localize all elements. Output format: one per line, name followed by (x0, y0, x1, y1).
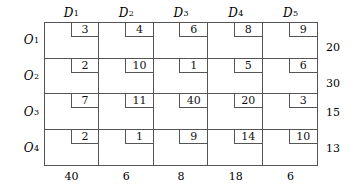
column-header-d1: D1 (44, 4, 99, 22)
cost-value: 20 (234, 94, 262, 108)
cost-value: 7 (71, 94, 99, 108)
table-cell[interactable]: 4 (99, 23, 153, 59)
table-cell[interactable]: 9 (154, 130, 208, 166)
row-header-letter: O (24, 105, 34, 119)
supply-value: 30 (322, 58, 356, 94)
row-header-o2: O2 (10, 58, 42, 94)
column-header-d5: D5 (263, 4, 318, 22)
cost-value: 1 (125, 130, 153, 145)
cost-value: 11 (125, 94, 153, 108)
table-cell[interactable]: 6 (154, 23, 208, 59)
demand-value: 40 (44, 167, 99, 185)
table-cell[interactable]: 2 (45, 130, 99, 166)
cost-grid: 34689210156711402032191410 (44, 22, 318, 166)
cost-value: 10 (289, 130, 317, 145)
cost-value: 14 (234, 130, 262, 145)
column-header-letter: D (173, 6, 183, 20)
cost-value: 40 (179, 94, 207, 108)
demand-value: 18 (208, 167, 263, 185)
column-header-subscript: 2 (129, 9, 134, 18)
table-cell[interactable]: 9 (263, 23, 317, 59)
supply-value: 15 (322, 94, 356, 130)
column-header-letter: D (64, 6, 74, 20)
row-header-o1: O1 (10, 22, 42, 58)
table-cell[interactable]: 11 (99, 94, 153, 130)
cost-value: 4 (125, 23, 153, 37)
cost-value: 9 (179, 130, 207, 145)
table-cell[interactable]: 3 (263, 94, 317, 130)
column-header-subscript: 3 (183, 9, 188, 18)
row-header-subscript: 1 (34, 36, 39, 45)
column-header-d4: D4 (208, 4, 263, 22)
demand-value: 8 (154, 167, 209, 185)
table-cell[interactable]: 40 (154, 94, 208, 130)
cost-value: 3 (71, 23, 99, 37)
table-cell[interactable]: 1 (154, 59, 208, 95)
cost-value: 2 (71, 59, 99, 73)
table-cell[interactable]: 7 (45, 94, 99, 130)
table-cell[interactable]: 1 (99, 130, 153, 166)
table-cell[interactable]: 2 (45, 59, 99, 95)
row-header-letter: O (24, 69, 34, 83)
row-header-subscript: 3 (34, 108, 39, 117)
table-cell[interactable]: 3 (45, 23, 99, 59)
cost-value: 10 (125, 59, 153, 73)
cost-value: 6 (179, 23, 207, 37)
demand-value: 6 (99, 167, 154, 185)
cost-value: 5 (234, 59, 262, 73)
cost-value: 6 (289, 59, 317, 73)
row-header-subscript: 2 (34, 72, 39, 81)
cost-value: 1 (179, 59, 207, 73)
cost-value: 8 (234, 23, 262, 37)
row-header-o3: O3 (10, 94, 42, 130)
column-header-letter: D (283, 6, 293, 20)
table-cell[interactable]: 20 (208, 94, 262, 130)
column-header-d3: D3 (154, 4, 209, 22)
column-header-d2: D2 (99, 4, 154, 22)
demand-value: 6 (263, 167, 318, 185)
supply-value: 13 (322, 130, 356, 166)
supply-column: 20301513 (322, 22, 356, 166)
table-cell[interactable]: 8 (208, 23, 262, 59)
row-header-letter: O (24, 33, 34, 47)
transportation-tableau: D1D2D3D4D5 O1O2O3O4 34689210156711402032… (0, 0, 361, 191)
row-header-subscript: 4 (34, 144, 39, 153)
row-header-letter: O (24, 141, 34, 155)
column-header-subscript: 1 (74, 9, 79, 18)
column-header-row: D1D2D3D4D5 (44, 4, 318, 22)
table-cell[interactable]: 10 (263, 130, 317, 166)
row-header-o4: O4 (10, 130, 42, 166)
cost-value: 3 (289, 94, 317, 108)
table-cell[interactable]: 10 (99, 59, 153, 95)
demand-row: 4068186 (44, 167, 318, 185)
table-cell[interactable]: 14 (208, 130, 262, 166)
cost-value: 9 (289, 23, 317, 37)
column-header-subscript: 4 (238, 9, 243, 18)
column-header-subscript: 5 (293, 9, 298, 18)
supply-value: 20 (322, 22, 356, 58)
table-cell[interactable]: 5 (208, 59, 262, 95)
column-header-letter: D (119, 6, 129, 20)
row-header-column: O1O2O3O4 (10, 22, 42, 166)
column-header-letter: D (228, 6, 238, 20)
cost-value: 2 (71, 130, 99, 145)
table-cell[interactable]: 6 (263, 59, 317, 95)
